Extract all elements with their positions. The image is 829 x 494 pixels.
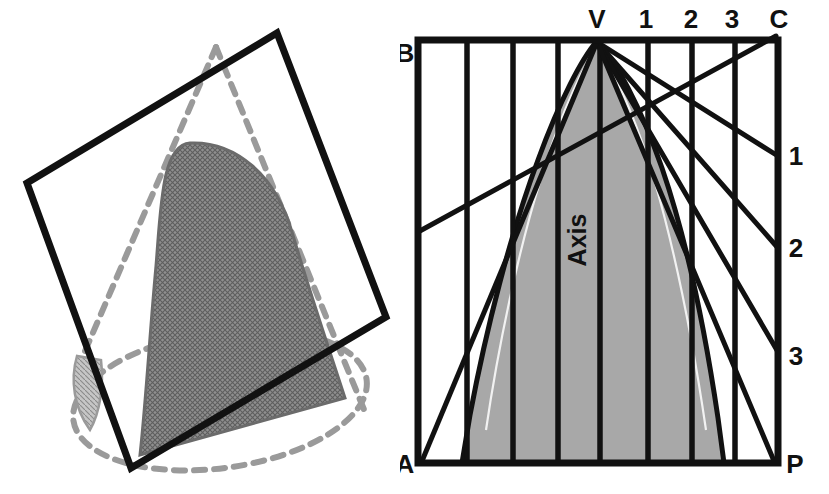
figure-root: Axis B A P C V 1 2 3 1 2 3 xyxy=(0,0,829,494)
label-A: A xyxy=(400,449,415,479)
label-side-2: 2 xyxy=(789,233,803,263)
label-side-3: 3 xyxy=(789,341,803,371)
label-B: B xyxy=(400,38,414,68)
parabolic-section-face xyxy=(140,143,345,455)
label-side-1: 1 xyxy=(789,141,803,171)
label-top-1: 1 xyxy=(639,4,653,34)
label-top-3: 3 xyxy=(725,4,739,34)
orthographic-view-panel: Axis B A P C V 1 2 3 1 2 3 xyxy=(400,0,829,494)
label-axis: Axis xyxy=(563,214,591,267)
orthographic-view-svg: Axis B A P C V 1 2 3 1 2 3 xyxy=(400,0,829,494)
label-C: C xyxy=(770,4,789,34)
pictorial-view-svg xyxy=(0,0,400,494)
pictorial-view-panel xyxy=(0,0,400,494)
label-top-V: V xyxy=(588,4,606,34)
label-top-2: 2 xyxy=(684,4,698,34)
label-P: P xyxy=(786,449,803,479)
